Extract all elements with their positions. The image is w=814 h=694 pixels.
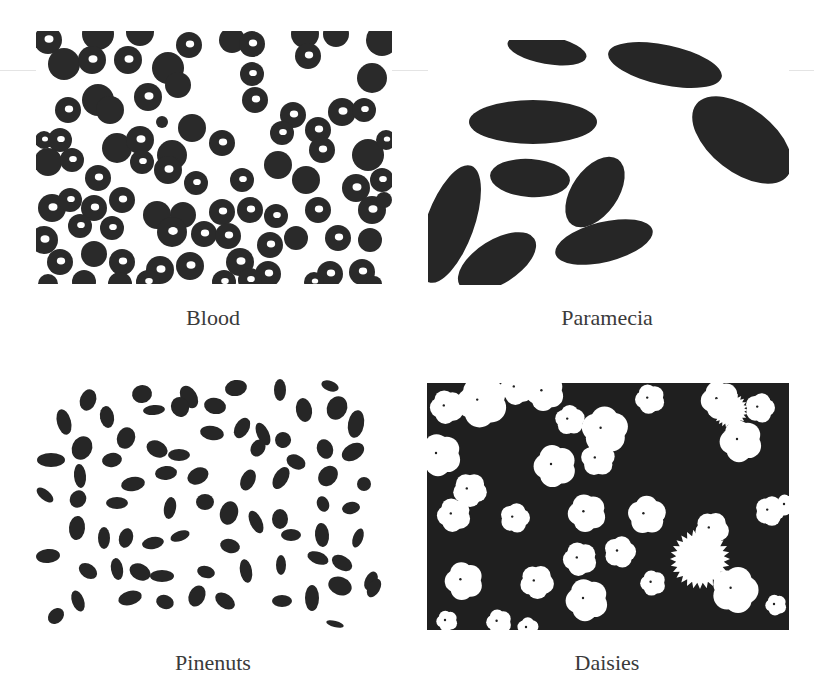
caption-daisies: Daisies	[457, 650, 757, 676]
daisies-image	[0, 0, 814, 694]
